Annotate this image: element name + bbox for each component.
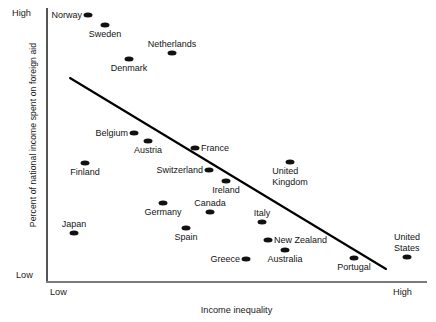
data-point-marker[interactable] bbox=[159, 201, 168, 206]
y-axis-tick-low: Low bbox=[16, 270, 33, 280]
data-point-label: Denmark bbox=[111, 63, 148, 74]
data-point-marker[interactable] bbox=[191, 146, 200, 151]
x-axis-title: Income inequality bbox=[46, 305, 427, 315]
data-point-marker[interactable] bbox=[168, 51, 177, 56]
data-point-marker[interactable] bbox=[281, 248, 290, 253]
data-point-label: Australia bbox=[267, 254, 302, 265]
data-point-marker[interactable] bbox=[403, 255, 412, 260]
data-point-marker[interactable] bbox=[205, 168, 214, 173]
data-point-label: United States bbox=[394, 232, 420, 253]
data-point-label: Japan bbox=[62, 219, 87, 230]
data-point-marker[interactable] bbox=[144, 139, 153, 144]
data-point-marker[interactable] bbox=[258, 220, 267, 225]
data-point-label: Italy bbox=[254, 208, 271, 219]
data-point-label: Finland bbox=[70, 167, 100, 178]
data-point-label: Switzerland bbox=[156, 165, 203, 176]
data-point-marker[interactable] bbox=[350, 256, 359, 261]
data-point-label: Sweden bbox=[89, 29, 122, 40]
data-point-marker[interactable] bbox=[242, 257, 251, 262]
data-point-label: Belgium bbox=[95, 128, 128, 139]
data-point-marker[interactable] bbox=[125, 57, 134, 62]
data-point-marker[interactable] bbox=[101, 23, 110, 28]
y-axis-line bbox=[46, 8, 48, 282]
data-point-marker[interactable] bbox=[264, 238, 273, 243]
data-point-marker[interactable] bbox=[206, 210, 215, 215]
y-axis-title: Percent of national income spent on fore… bbox=[28, 29, 38, 241]
data-point-label: Greece bbox=[210, 254, 240, 265]
x-axis-tick-high: High bbox=[393, 287, 412, 297]
data-point-marker[interactable] bbox=[70, 231, 79, 236]
data-point-label: Spain bbox=[174, 232, 197, 243]
trend-line bbox=[0, 0, 436, 322]
scatter-chart: Percent of national income spent on fore… bbox=[0, 0, 436, 322]
data-point-marker[interactable] bbox=[182, 226, 191, 231]
data-point-marker[interactable] bbox=[81, 161, 90, 166]
x-axis-tick-low: Low bbox=[50, 287, 67, 297]
data-point-marker[interactable] bbox=[130, 131, 139, 136]
x-axis-line bbox=[46, 281, 427, 283]
y-axis-tick-high: High bbox=[12, 8, 31, 18]
data-point-label: Germany bbox=[144, 207, 181, 218]
data-point-label: Norway bbox=[51, 10, 82, 21]
data-point-label: New Zealand bbox=[274, 235, 327, 246]
data-point-marker[interactable] bbox=[222, 179, 231, 184]
data-point-marker[interactable] bbox=[84, 13, 93, 18]
data-point-marker[interactable] bbox=[286, 160, 295, 165]
data-point-label: Austria bbox=[134, 145, 162, 156]
data-point-label: Netherlands bbox=[148, 39, 197, 50]
data-point-label: United Kingdom bbox=[272, 166, 308, 187]
data-point-label: France bbox=[201, 143, 229, 154]
data-point-label: Portugal bbox=[337, 262, 371, 273]
data-point-label: Canada bbox=[194, 198, 226, 209]
data-point-label: Ireland bbox=[212, 185, 240, 196]
